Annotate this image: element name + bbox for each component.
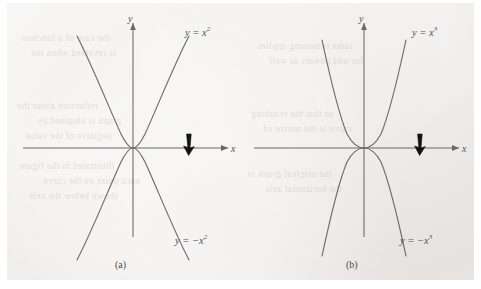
curve-label-lower-b: y = −x3	[400, 233, 432, 246]
figure-root: the case of a functionis reversed when t…	[0, 0, 481, 289]
x-axis-arrowhead	[221, 145, 228, 151]
panel-b: y x y = x3 y = −x3 (b)	[240, 3, 473, 280]
plot-area-b	[240, 3, 473, 255]
down-arrow-marker-a	[184, 134, 195, 156]
curve-label-lower-a: y = −x2	[175, 233, 207, 246]
panel-a: y x y = x2 y = −x2 (a)	[9, 3, 242, 280]
down-arrow-marker-b	[415, 134, 426, 156]
plot-area-a	[9, 3, 242, 255]
scan-plate: the case of a functionis reversed when t…	[7, 3, 474, 280]
axes-a	[23, 23, 228, 237]
y-axis-arrowhead	[130, 23, 136, 30]
x-axis-label-b: x	[462, 143, 466, 154]
panel-caption-b: (b)	[346, 259, 358, 270]
y-axis-arrowhead	[361, 23, 367, 30]
curve-label-upper-b: y = x3	[412, 25, 437, 38]
x-axis-arrowhead	[452, 145, 459, 151]
y-axis-label-a: y	[128, 13, 132, 24]
panel-container: y x y = x2 y = −x2 (a)	[7, 3, 474, 280]
curve-label-upper-a: y = x2	[185, 25, 210, 38]
axes-b	[254, 23, 459, 237]
y-axis-label-b: y	[359, 13, 363, 24]
panel-caption-a: (a)	[115, 259, 126, 270]
x-axis-label-a: x	[231, 143, 235, 154]
